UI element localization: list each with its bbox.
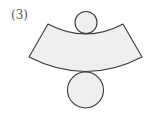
top-circle xyxy=(75,12,97,34)
bottom-circle xyxy=(68,72,104,108)
frustum-net-diagram xyxy=(0,0,149,116)
